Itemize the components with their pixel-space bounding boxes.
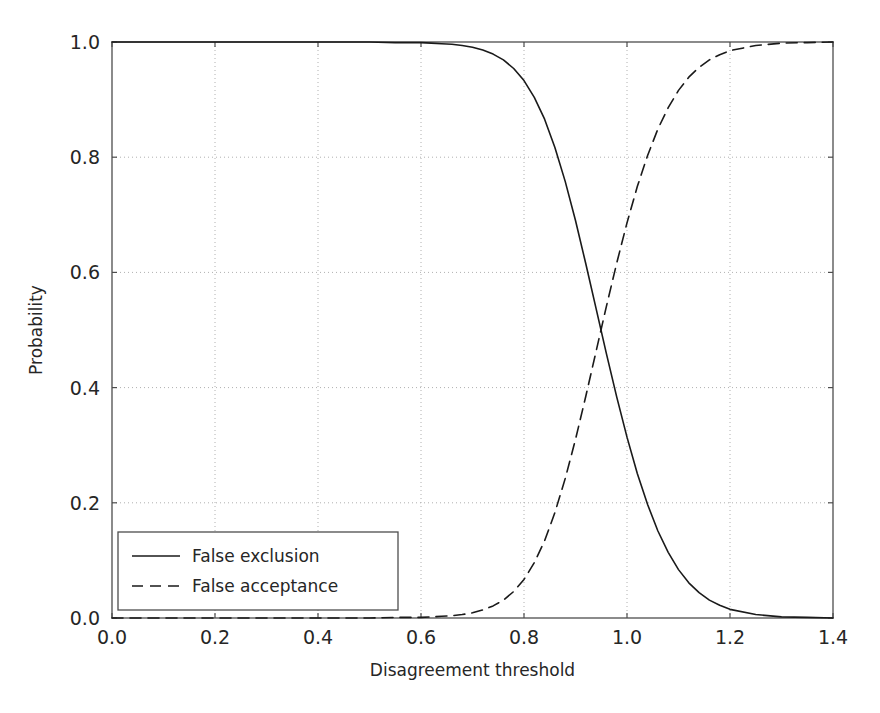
x-axis-title: Disagreement threshold (370, 660, 575, 680)
y-tick-label: 0.2 (70, 492, 100, 514)
x-tick-label: 1.0 (612, 626, 642, 648)
x-tick-label: 0.8 (509, 626, 539, 648)
legend-item-label: False exclusion (192, 546, 320, 566)
x-tick-label: 1.4 (818, 626, 848, 648)
probability-line-chart: 0.00.20.40.60.81.01.21.4 0.00.20.40.60.8… (0, 0, 880, 713)
x-tick-label: 0.6 (406, 626, 436, 648)
x-tick-label: 1.2 (715, 626, 745, 648)
x-tick-label: 0.0 (97, 626, 127, 648)
y-tick-label: 1.0 (70, 31, 100, 53)
x-tick-label: 0.2 (200, 626, 230, 648)
y-axis-title: Probability (26, 285, 46, 375)
chart-figure: 0.00.20.40.60.81.01.21.4 0.00.20.40.60.8… (0, 0, 880, 713)
legend: False exclusionFalse acceptance (118, 532, 398, 610)
legend-box (118, 532, 398, 610)
y-tick-label: 0.8 (70, 146, 100, 168)
y-tick-label: 0.4 (70, 377, 100, 399)
legend-item-label: False acceptance (192, 576, 338, 596)
y-tick-label: 0.0 (70, 607, 100, 629)
y-tick-label: 0.6 (70, 261, 100, 283)
x-tick-label: 0.4 (303, 626, 333, 648)
